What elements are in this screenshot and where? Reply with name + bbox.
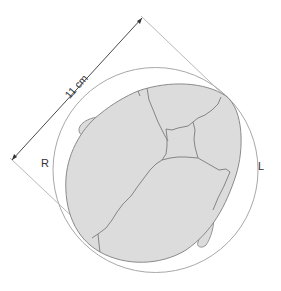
head-diagram: 11 cm R L [0,0,281,291]
measurement-label: 11 cm [62,72,90,101]
left-side-label: L [258,160,264,172]
right-side-label: R [41,157,49,169]
diagram-canvas: 11 cm R L [0,0,281,291]
